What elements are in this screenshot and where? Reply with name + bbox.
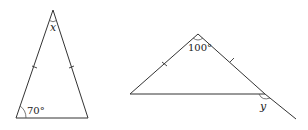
base-angle-arc [20,106,26,118]
right-side-tick [230,58,234,62]
angle-y-label: y [259,100,267,113]
left-triangle: x 70° [16,10,88,118]
right-triangle: 100° y [130,34,296,119]
angle-70-label: 70° [27,105,45,116]
angle-x-label: x [50,21,57,34]
apex-angle-arc [193,38,203,40]
diagram-svg: x 70° 100° y [0,0,308,130]
angle-100-label: 100° [188,42,212,53]
geometry-diagram: x 70° 100° y [0,0,308,130]
